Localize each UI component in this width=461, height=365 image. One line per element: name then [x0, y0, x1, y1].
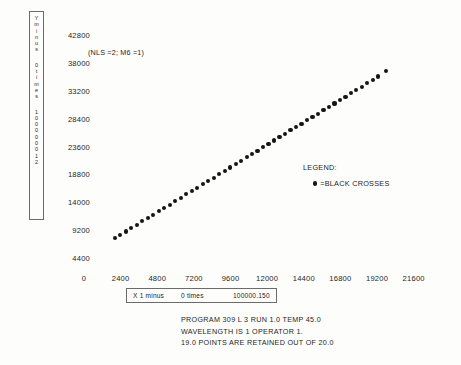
filled-circle-icon — [313, 181, 317, 185]
data-point-marker — [190, 189, 194, 193]
data-point-marker — [338, 98, 342, 102]
data-point-marker — [157, 209, 161, 213]
data-point-marker — [245, 155, 249, 159]
data-point-marker — [124, 229, 128, 233]
data-point-marker — [201, 182, 205, 186]
data-point-marker — [184, 192, 188, 196]
data-point-marker — [376, 74, 380, 78]
x-tick-label: 7200 — [174, 274, 214, 283]
data-point-marker — [129, 226, 133, 230]
caption-char: s — [35, 46, 38, 52]
y-tick-label: 38000 — [48, 59, 90, 68]
data-point-marker — [206, 179, 210, 183]
caption-char: 2 — [35, 159, 38, 165]
data-point-marker — [118, 233, 122, 237]
x-axis-caption-box: X 1 minus 0 times 100000.150 — [126, 288, 277, 303]
data-point-marker — [332, 101, 336, 105]
y-tick-label: 23600 — [48, 143, 90, 152]
y-axis-caption-group-1: Yminus — [34, 15, 39, 53]
data-point-marker — [365, 81, 369, 85]
data-point-marker — [239, 159, 243, 163]
data-point-marker — [151, 213, 155, 217]
data-point-marker — [223, 169, 227, 173]
data-point-marker — [266, 142, 270, 146]
y-tick-label: 4400 — [48, 254, 90, 263]
data-point-marker — [277, 135, 281, 139]
data-point-marker — [113, 236, 117, 240]
plot-annotation: (NLS =2; M6 =1) — [88, 48, 144, 57]
data-point-marker — [168, 203, 172, 207]
x-tick-label: 4800 — [137, 274, 177, 283]
legend-entry-black-crosses: =BLACK CROSSES — [313, 179, 390, 188]
data-point-marker — [135, 223, 139, 227]
x-tick-label: 12000 — [247, 274, 287, 283]
data-point-marker — [140, 219, 144, 223]
data-point-marker — [272, 138, 276, 142]
data-point-marker — [327, 105, 331, 109]
legend-title: LEGEND: — [303, 163, 390, 172]
data-point-marker — [349, 91, 353, 95]
x-tick-label: 0 — [64, 274, 104, 283]
data-point-marker — [250, 152, 254, 156]
footer-line-program: PROGRAM 309 L 3 RUN 1.0 TEMP 45.0 — [181, 314, 334, 326]
data-point-marker — [371, 78, 375, 82]
y-axis-caption-group-2: 0times — [34, 62, 39, 100]
data-point-marker — [173, 199, 177, 203]
footer-line-wavelength: WAVELENGTH IS 1 OPERATOR 1. — [181, 326, 334, 338]
data-point-marker — [179, 196, 183, 200]
y-tick-label: 14000 — [48, 198, 90, 207]
footer-line-points: 19.0 POINTS ARE RETAINED OUT OF 20.0 — [181, 337, 334, 349]
y-tick-label: 42800 — [48, 31, 90, 40]
y-tick-label: 28400 — [48, 115, 90, 124]
legend-entry-label: =BLACK CROSSES — [320, 179, 389, 188]
x-tick-label: 2400 — [101, 274, 141, 283]
data-point-marker — [321, 108, 325, 112]
data-point-marker — [316, 112, 320, 116]
x-tick-label: 14400 — [284, 274, 324, 283]
data-point-marker — [234, 162, 238, 166]
data-point-marker — [217, 172, 221, 176]
x-axis-caption-part1: X 1 minus — [133, 292, 181, 299]
data-point-marker — [343, 95, 347, 99]
x-tick-label: 16800 — [320, 274, 360, 283]
y-tick-label: 9200 — [48, 226, 90, 235]
x-tick-label: 9600 — [211, 274, 251, 283]
data-point-marker — [384, 69, 388, 73]
caption-char: s — [35, 93, 38, 99]
data-point-marker — [195, 186, 199, 190]
footer-metadata: PROGRAM 309 L 3 RUN 1.0 TEMP 45.0 WAVELE… — [181, 314, 334, 349]
y-tick-label: 33200 — [48, 87, 90, 96]
legend: LEGEND: =BLACK CROSSES — [303, 163, 390, 188]
data-point-marker — [354, 88, 358, 92]
plot-page: Yminus 0times 100000012 4280038000332002… — [0, 0, 461, 365]
x-tick-label: 21600 — [394, 274, 434, 283]
data-point-marker — [310, 115, 314, 119]
data-point-marker — [261, 145, 265, 149]
scatter-plot-area — [0, 0, 461, 365]
y-tick-label: 18800 — [48, 170, 90, 179]
data-point-marker — [212, 176, 216, 180]
data-point-marker — [288, 128, 292, 132]
data-point-marker — [305, 118, 309, 122]
x-axis-caption-part2: 0 times — [181, 292, 233, 299]
data-point-marker — [294, 125, 298, 129]
data-point-marker — [299, 122, 303, 126]
y-axis-caption-box: Yminus 0times 100000012 — [29, 11, 44, 220]
x-tick-label: 19200 — [357, 274, 397, 283]
data-point-marker — [360, 85, 364, 89]
x-axis-caption-part3: 100000.150 — [233, 292, 270, 299]
data-point-marker — [283, 132, 287, 136]
data-point-marker — [162, 206, 166, 210]
y-axis-caption-group-3: 100000012 — [35, 109, 38, 166]
data-point-marker — [228, 165, 232, 169]
data-point-marker — [146, 216, 150, 220]
data-point-marker — [255, 149, 259, 153]
